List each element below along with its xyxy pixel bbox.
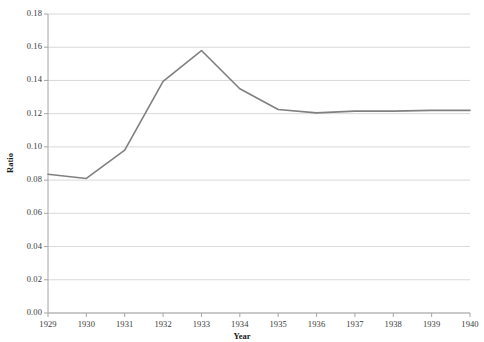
y-axis-tick-label: 0.02 [6,274,42,284]
x-axis-tick-label: 1933 [181,319,221,329]
chart-container: 0.000.020.040.060.080.100.120.140.160.18… [0,0,484,342]
x-axis-title: Year [0,331,484,341]
data-series-line [48,51,470,179]
y-axis-tick-label: 0.06 [6,207,42,217]
y-axis-tick-label: 0.14 [6,74,42,84]
line-chart-plot [0,0,484,342]
x-axis-tick-label: 1935 [258,319,298,329]
x-axis-tick-label: 1939 [412,319,452,329]
x-axis-tick-label: 1930 [66,319,106,329]
x-axis-tick-label: 1929 [28,319,68,329]
y-axis-tick-label: 0.04 [6,241,42,251]
x-axis-tick-marks [48,313,470,317]
x-axis-tick-label: 1931 [105,319,145,329]
y-axis-title: Ratio [5,133,15,193]
x-axis-tick-label: 1936 [297,319,337,329]
x-axis-tick-label: 1940 [450,319,484,329]
x-axis-tick-label: 1937 [335,319,375,329]
y-axis-tick-label: 0.00 [6,307,42,317]
x-axis-tick-label: 1938 [373,319,413,329]
y-axis-tick-label: 0.12 [6,108,42,118]
x-axis-tick-label: 1934 [220,319,260,329]
y-axis-tick-label: 0.16 [6,41,42,51]
y-axis-tick-label: 0.18 [6,8,42,18]
x-axis-tick-label: 1932 [143,319,183,329]
